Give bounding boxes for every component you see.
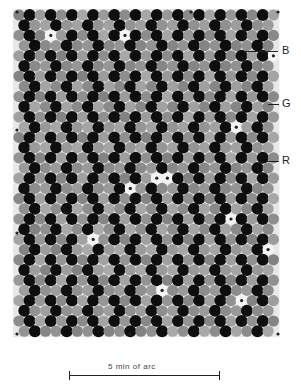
label-r: R bbox=[282, 154, 290, 166]
label-b-leader bbox=[244, 51, 278, 52]
label-b: B bbox=[282, 44, 289, 56]
scale-bar-tick-left bbox=[69, 371, 70, 380]
scale-bar bbox=[69, 375, 219, 376]
label-g-leader bbox=[268, 104, 279, 105]
scale-bar-label: 5 min of arc bbox=[108, 362, 156, 371]
label-r-leader bbox=[267, 161, 279, 162]
label-g: G bbox=[282, 97, 291, 109]
scale-bar-tick-right bbox=[219, 371, 220, 380]
